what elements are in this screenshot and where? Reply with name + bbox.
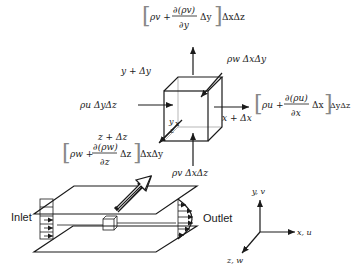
flux-back-label: ρw ΔxΔy [226, 54, 267, 64]
flux-top-expression: [ ρv + ∂(ρv) ∂y Δy ] ΔxΔz [142, 3, 245, 30]
top-plate [34, 186, 197, 214]
label-z-plus-dz: z + Δz [97, 132, 128, 142]
bottom-plate [34, 226, 197, 252]
x-axis-label: x, u [297, 228, 312, 237]
svg-text:∂(ρw): ∂(ρw) [93, 142, 118, 152]
channel: Inlet Outlet [11, 176, 232, 252]
svg-text:ΔyΔz: ΔyΔz [330, 101, 350, 110]
y-axis-label: y, v [251, 187, 266, 196]
svg-text:ρw +: ρw + [69, 149, 93, 159]
flux-front-expression: [ ρw + ∂(ρw) ∂z Δz ] ΔxΔy [62, 140, 164, 167]
outlet-profile [178, 199, 193, 239]
arrow-flux-front [159, 124, 178, 143]
svg-text:Δz: Δz [120, 149, 131, 159]
flux-top-denominator: ∂y [179, 20, 190, 30]
z-axis-arrow [242, 232, 260, 253]
flux-left-label: ρu ΔyΔz [79, 100, 117, 110]
inlet-label: Inlet [11, 211, 32, 223]
svg-text:ρu +: ρu + [261, 100, 284, 110]
label-y-plus-dy: y + Δy [120, 66, 152, 76]
svg-text:∂x: ∂x [291, 108, 301, 118]
svg-text:ΔxΔy: ΔxΔy [140, 149, 164, 159]
z-axis-label: z, w [226, 256, 243, 265]
coordinate-axes: y, v x, u z, w [226, 187, 312, 265]
flux-right-expression: [ ρu + ∂(ρu) ∂x Δx ] ΔyΔz [254, 91, 350, 118]
svg-text:Δx: Δx [312, 100, 324, 110]
outlet-label: Outlet [203, 212, 232, 224]
flux-top-lead: ρv + [149, 12, 171, 22]
svg-text:∂z: ∂z [100, 157, 110, 167]
flux-bottom-label: ρv ΔxΔz [171, 168, 208, 178]
zoom-arrow [115, 176, 151, 212]
diagram-canvas: [ ρv + ∂(ρv) ∂y Δy ] ΔxΔz y + Δy ρu ΔyΔz… [0, 0, 352, 270]
small-element [57, 216, 176, 230]
flux-top-tail: ΔxΔz [222, 12, 245, 22]
flux-top-numerator: ∂(ρv) [173, 5, 196, 15]
svg-text:y: y [168, 117, 174, 126]
svg-text:∂(ρu): ∂(ρu) [285, 93, 308, 103]
flux-top-delta: Δy [200, 12, 212, 22]
label-x-plus-dx: x + Δx [222, 113, 252, 123]
